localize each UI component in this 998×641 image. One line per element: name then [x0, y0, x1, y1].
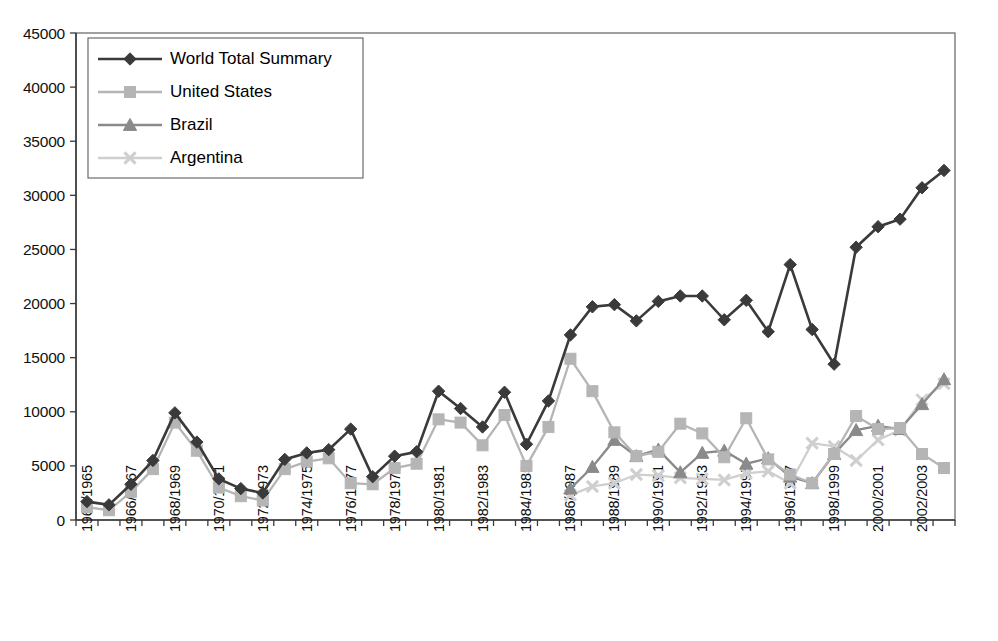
- data-point-square-marker: [587, 386, 598, 397]
- x-axis-tick-label: 2000/2001: [870, 465, 886, 532]
- x-axis-tick-label: 1974/1975: [299, 465, 315, 532]
- x-axis-tick-label: 1968/1969: [167, 465, 183, 532]
- legend-item-label: Brazil: [170, 115, 213, 134]
- data-point-square-marker: [917, 448, 928, 459]
- data-point-square-marker: [829, 448, 840, 459]
- series-world-total-summary: [81, 164, 950, 511]
- y-axis-tick-label: 30000: [23, 187, 66, 204]
- x-axis-tick-label: 1966/1967: [123, 465, 139, 532]
- chart-container: 0500010000150002000025000300003500040000…: [0, 0, 998, 641]
- data-point-square-marker: [785, 469, 796, 480]
- data-point-x-marker: [872, 434, 883, 445]
- data-point-square-marker: [741, 413, 752, 424]
- data-point-square-marker: [719, 452, 730, 463]
- y-axis-tick-label: 5000: [31, 457, 65, 474]
- data-point-square-marker: [543, 421, 554, 432]
- data-point-square-marker: [433, 414, 444, 425]
- x-axis-tick-label: 1988/1989: [606, 465, 622, 532]
- x-axis-tick-label: 1980/1981: [431, 465, 447, 532]
- data-point-square-marker: [653, 446, 664, 457]
- legend-item-label: Argentina: [170, 148, 243, 167]
- data-point-square-marker: [477, 440, 488, 451]
- data-point-diamond-marker: [674, 290, 686, 302]
- data-point-square-marker: [807, 478, 818, 489]
- x-axis-tick-label: 1978/1979: [387, 465, 403, 532]
- x-axis-tick-label: 1998/1999: [826, 465, 842, 532]
- data-point-diamond-marker: [784, 258, 796, 270]
- y-axis-tick-label: 45000: [23, 25, 66, 42]
- data-point-diamond-marker: [498, 386, 510, 398]
- y-axis-tick-label: 35000: [23, 133, 66, 150]
- data-point-square-marker: [345, 478, 356, 489]
- data-point-square-marker: [873, 424, 884, 435]
- data-point-square-marker: [565, 353, 576, 364]
- data-point-diamond-marker: [806, 323, 818, 335]
- series-line: [87, 170, 944, 504]
- chart-legend: World Total SummaryUnited StatesBrazilAr…: [88, 38, 363, 178]
- data-point-square-marker: [939, 463, 950, 474]
- y-axis-tick-label: 15000: [23, 349, 66, 366]
- data-point-square-marker: [697, 428, 708, 439]
- data-point-square-marker: [763, 454, 774, 465]
- legend-item-label: World Total Summary: [170, 49, 332, 68]
- data-point-diamond-marker: [520, 438, 532, 450]
- data-point-square-marker: [521, 460, 532, 471]
- data-point-square-marker: [389, 463, 400, 474]
- y-axis-tick-label: 0: [57, 512, 66, 529]
- data-point-diamond-marker: [828, 358, 840, 370]
- y-axis-tick-label: 40000: [23, 79, 66, 96]
- data-point-square-marker: [411, 458, 422, 469]
- line-chart: 0500010000150002000025000300003500040000…: [0, 0, 998, 641]
- x-axis-tick-label: 1984/1985: [518, 465, 534, 532]
- legend-item-label: United States: [170, 82, 272, 101]
- data-point-square-marker: [631, 451, 642, 462]
- y-axis-tick-label: 10000: [23, 403, 66, 420]
- data-point-diamond-marker: [542, 395, 554, 407]
- data-point-square-marker: [455, 417, 466, 428]
- x-axis-tick-label: 2002/2003: [914, 465, 930, 532]
- data-point-square-marker: [851, 411, 862, 422]
- x-axis-tick-label: 1982/1983: [475, 465, 491, 532]
- data-point-square-marker: [499, 410, 510, 421]
- data-point-square-marker: [609, 427, 620, 438]
- y-axis-tick-label: 25000: [23, 241, 66, 258]
- data-point-square-marker: [675, 418, 686, 429]
- data-point-x-marker: [851, 455, 862, 466]
- data-point-square-marker: [125, 87, 136, 98]
- data-point-square-marker: [895, 423, 906, 434]
- y-axis-tick-label: 20000: [23, 295, 66, 312]
